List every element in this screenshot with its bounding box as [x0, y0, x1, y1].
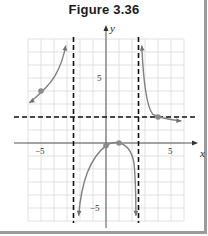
arrow-icon — [134, 211, 139, 216]
curve-middle-branch — [79, 142, 136, 215]
arrow-icon — [176, 118, 181, 123]
x-tick-label: −5 — [35, 146, 45, 156]
x-tick-label: 5 — [168, 146, 173, 156]
data-point — [38, 88, 44, 94]
y-tick-label: 5 — [97, 73, 102, 83]
y-axis-arrow-icon — [104, 25, 109, 31]
data-point — [103, 143, 109, 149]
curve-right-branch — [142, 46, 182, 121]
arrow-icon — [140, 46, 145, 51]
data-point — [116, 140, 122, 146]
graph-plot: xy−555−5 — [0, 0, 208, 236]
x-axis-label: x — [199, 147, 205, 159]
y-axis-label: y — [109, 22, 115, 34]
data-point — [155, 114, 161, 120]
y-tick-label: −5 — [90, 203, 100, 213]
x-axis-arrow-icon — [192, 141, 198, 146]
arrow-icon — [62, 46, 67, 51]
curve-left-branch — [29, 46, 65, 103]
arrow-icon — [77, 211, 82, 216]
